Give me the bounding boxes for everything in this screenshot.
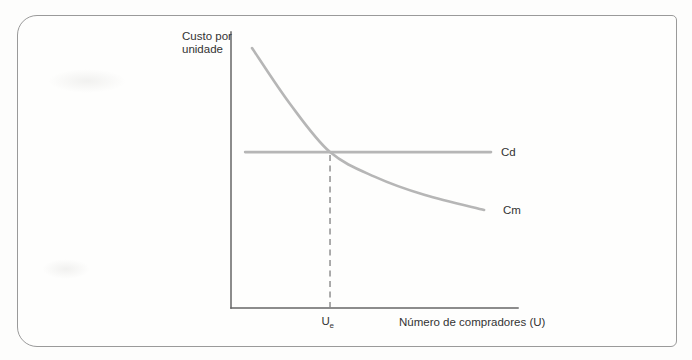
cd-curve-label: Cd bbox=[501, 146, 516, 158]
scanned-figure-page: Custo por unidade Cd Cm U e Número de co… bbox=[0, 0, 692, 360]
cm-curve-label: Cm bbox=[503, 204, 521, 216]
chart-svg: Custo por unidade Cd Cm U e Número de co… bbox=[0, 0, 692, 360]
y-axis-label-line2: unidade bbox=[182, 43, 223, 55]
x-axis-label: Número de compradores (U) bbox=[399, 316, 546, 328]
y-axis-label-line1: Custo por bbox=[182, 30, 232, 42]
ue-tick-label-subscript: e bbox=[330, 321, 335, 330]
cm-curve bbox=[252, 48, 484, 210]
